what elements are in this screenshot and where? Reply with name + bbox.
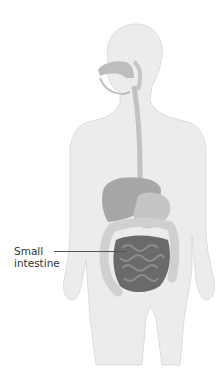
label-leader-line [54, 251, 126, 252]
label-line-1: Small [14, 245, 60, 257]
small-intestine-label: Small intestine [14, 245, 60, 269]
label-line-2: intestine [14, 257, 60, 269]
small-intestine [113, 236, 170, 293]
anatomy-figure [0, 0, 224, 383]
